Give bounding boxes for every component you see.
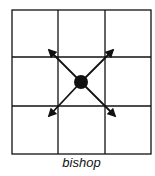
arrow-down-right-icon	[81, 82, 115, 116]
chess-move-diagram	[0, 0, 155, 176]
bishop-piece-icon	[74, 75, 88, 89]
arrow-down-left-icon	[49, 82, 81, 116]
diagram-caption: bishop	[0, 155, 155, 170]
